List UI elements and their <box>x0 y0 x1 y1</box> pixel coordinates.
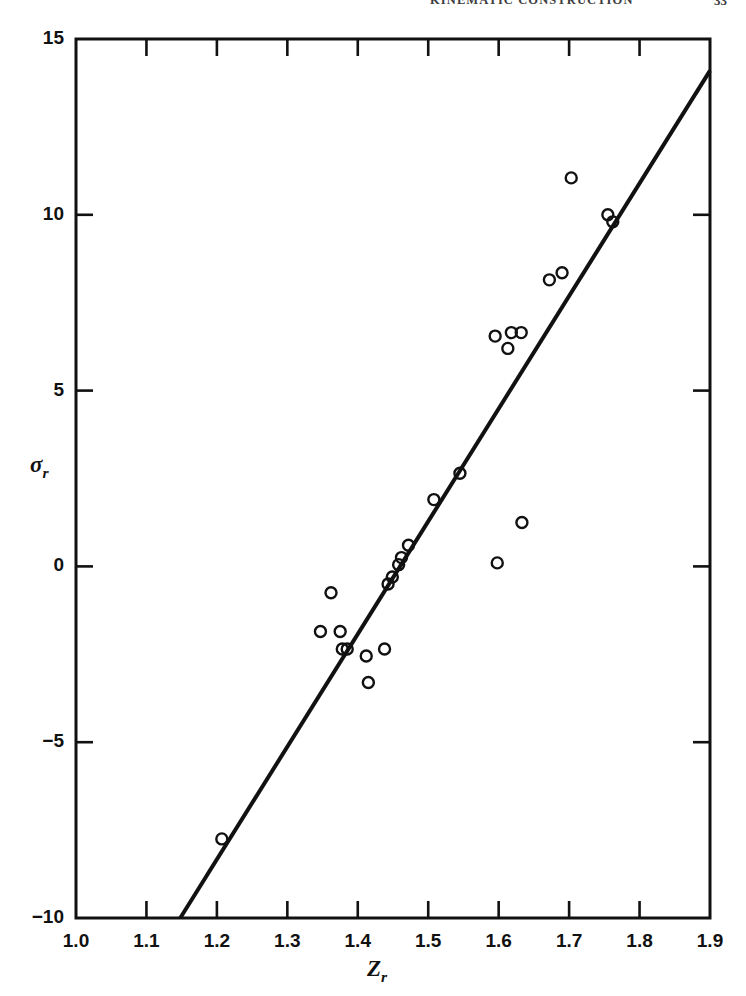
y-axis-title: σr <box>30 452 49 482</box>
data-points <box>216 172 618 844</box>
data-point-marker <box>492 557 503 568</box>
y-axis-title-subscript: r <box>42 464 48 481</box>
data-point-marker <box>516 517 527 528</box>
data-point-marker <box>428 494 439 505</box>
y-tick-label: 0 <box>8 554 64 576</box>
plot-canvas <box>0 0 746 996</box>
x-tick-label: 1.2 <box>204 930 230 952</box>
scatter-plot-figure: −10−5051015 1.01.11.21.31.41.51.61.71.81… <box>0 0 746 996</box>
data-point-marker <box>335 626 346 637</box>
x-tick-label: 1.9 <box>697 930 723 952</box>
x-tick-label: 1.4 <box>345 930 371 952</box>
data-point-marker <box>361 651 372 662</box>
data-point-marker <box>326 587 337 598</box>
x-tick-label: 1.1 <box>133 930 159 952</box>
axis-ticks <box>76 39 710 918</box>
data-point-marker <box>502 343 513 354</box>
plot-frame <box>76 39 710 918</box>
x-axis-title-subscript: r <box>381 968 387 985</box>
x-axis-title: Zr <box>367 956 387 986</box>
y-tick-label: 10 <box>8 203 64 225</box>
data-point-marker <box>216 833 227 844</box>
x-tick-label: 1.3 <box>274 930 300 952</box>
x-tick-label: 1.0 <box>63 930 89 952</box>
x-tick-label: 1.7 <box>556 930 582 952</box>
x-axis-title-symbol: Z <box>367 956 381 981</box>
data-point-marker <box>379 644 390 655</box>
y-tick-label: 15 <box>8 27 64 49</box>
y-tick-label: 5 <box>8 379 64 401</box>
data-point-marker <box>315 626 326 637</box>
y-axis-title-symbol: σ <box>30 452 42 477</box>
data-point-marker <box>363 677 374 688</box>
y-tick-label: −5 <box>8 730 64 752</box>
data-point-marker <box>544 274 555 285</box>
x-tick-label: 1.8 <box>626 930 652 952</box>
page: KINEMATIC CONSTRUCTION 33 −10−5051015 1.… <box>0 0 746 996</box>
x-tick-label: 1.6 <box>485 930 511 952</box>
data-point-marker <box>490 331 501 342</box>
plot-axes <box>76 39 710 918</box>
y-tick-label: −10 <box>8 906 64 928</box>
x-tick-label: 1.5 <box>415 930 441 952</box>
data-point-marker <box>566 172 577 183</box>
regression-line <box>180 71 710 918</box>
data-point-marker <box>557 267 568 278</box>
regression-line-path <box>180 71 710 918</box>
